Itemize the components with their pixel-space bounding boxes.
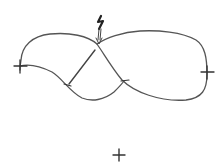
crossing-segment [69, 50, 95, 84]
figure-eight-left-lobe [20, 33, 124, 100]
lightning-bolt-icon [98, 16, 103, 29]
sketch-svg [0, 0, 223, 165]
diagram-canvas [0, 0, 223, 165]
arrow-shaft-2 [100, 29, 101, 40]
arrow-shaft [98, 29, 99, 40]
figure-eight-right-lobe [97, 31, 207, 100]
